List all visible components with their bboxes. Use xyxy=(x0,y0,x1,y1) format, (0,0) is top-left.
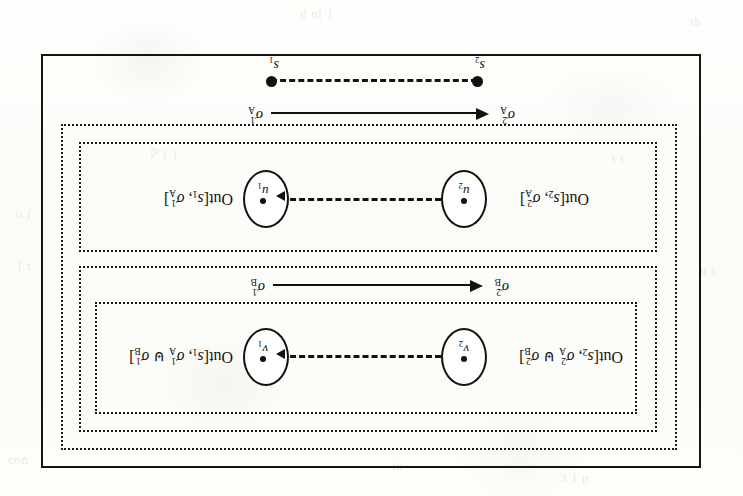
transition-source-label-upper: σ1B xyxy=(251,277,265,296)
figure-outer-frame: v2 v1 Out[s2, σ2A ⊎ σ2B] Out[s1, σ1A ⊎ σ… xyxy=(41,54,701,468)
out-label-lower-left: Out[s2, σ2A] xyxy=(520,188,589,207)
store-point-s1[interactable] xyxy=(266,76,277,87)
out-label-lower-right: Out[s1, σ1A] xyxy=(164,188,233,207)
transition-source-label-lower: σ1A xyxy=(248,105,263,124)
store-label-s2: s2 xyxy=(475,55,485,72)
node-u1-label: u1 xyxy=(245,181,287,198)
node-v1-label: v1 xyxy=(245,339,287,356)
node-v2-label: v2 xyxy=(443,339,485,356)
out-label-upper-right: Out[s1, σ1A ⊎ σ1B] xyxy=(129,346,233,365)
store-label-s1: s1 xyxy=(269,55,279,72)
transition-target-label-lower: σ2A xyxy=(500,105,515,124)
upper-dashed-connector xyxy=(281,355,441,358)
figure-rotation-wrapper: v2 v1 Out[s2, σ2A ⊎ σ2B] Out[s1, σ1A ⊎ σ… xyxy=(0,0,743,496)
transition-target-label-upper: σ2B xyxy=(495,277,509,296)
node-u1[interactable]: u1 xyxy=(243,170,289,228)
arrowhead-icon xyxy=(470,280,483,292)
node-v2[interactable]: v2 xyxy=(441,328,487,386)
transition-arrow-upper xyxy=(273,284,471,286)
node-v1[interactable]: v1 xyxy=(243,328,289,386)
node-u2[interactable]: u2 xyxy=(441,170,487,228)
node-u2-label: u2 xyxy=(443,181,485,198)
store-point-s2[interactable] xyxy=(472,76,483,87)
lower-dashed-connector xyxy=(281,198,441,201)
arrowhead-icon xyxy=(476,108,489,120)
out-label-upper-left: Out[s2, σ2A ⊎ σ2B] xyxy=(519,346,623,365)
transition-arrow-lower xyxy=(271,112,477,114)
store-dashed-line xyxy=(271,79,477,82)
